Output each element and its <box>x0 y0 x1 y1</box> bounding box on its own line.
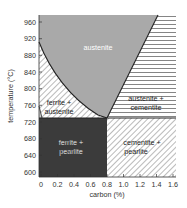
x-tick-label: 0 <box>39 180 43 189</box>
label-ferrite-pearlite-1: ferrite + <box>59 138 84 147</box>
label-austenite-cementite-2: cementite <box>130 103 161 112</box>
y-tick-label: 760 <box>24 101 36 110</box>
x-tick-label: 0.2 <box>53 180 63 189</box>
y-axis-title: temperature (°C) <box>6 69 15 123</box>
label-cementite-pearlite-2: pearlite <box>124 147 148 156</box>
x-tick-label: 1.4 <box>152 180 162 189</box>
x-tick-label: 1.6 <box>168 180 178 189</box>
y-tick-label: 600 <box>24 168 36 177</box>
x-tick-label: 1.0 <box>119 180 129 189</box>
label-austenite: austenite <box>83 43 112 52</box>
iron-carbon-phase-diagram: 960 920 880 840 800 760 720 680 640 600 … <box>0 0 187 208</box>
y-tick-label: 840 <box>24 68 36 77</box>
y-tick-label: 920 <box>24 34 36 43</box>
label-austenite-cementite-1: austenite + <box>128 94 163 103</box>
x-tick-label: 0.8 <box>102 180 112 189</box>
y-tick-label: 680 <box>24 134 36 143</box>
x-tick-label: 0.6 <box>86 180 96 189</box>
y-tick-label: 720 <box>24 118 36 127</box>
y-tick-label: 880 <box>24 51 36 60</box>
x-tick-label: 1.2 <box>135 180 145 189</box>
y-tick-label: 640 <box>24 151 36 160</box>
y-tick-label: 800 <box>24 84 36 93</box>
label-cementite-pearlite-1: cementite + <box>123 138 160 147</box>
label-ferrite-austenite-2: austenite <box>44 107 73 116</box>
x-axis-title: carbon (%) <box>89 190 124 199</box>
label-ferrite-pearlite-2: pearlite <box>59 147 83 156</box>
x-tick-label: 0.4 <box>69 180 79 189</box>
label-ferrite-austenite-1: ferrite + <box>47 98 72 107</box>
y-tick-label: 960 <box>24 18 36 27</box>
